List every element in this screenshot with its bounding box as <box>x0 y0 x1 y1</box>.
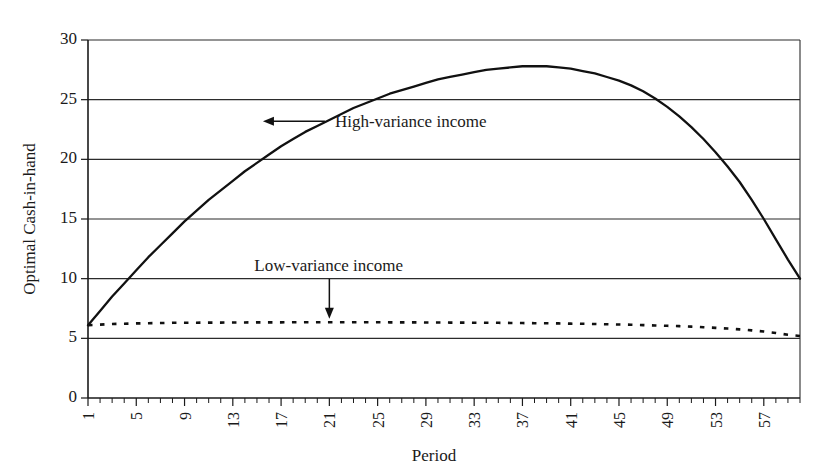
x-tick-label-9: 9 <box>177 412 194 420</box>
data-series <box>88 66 800 336</box>
low-variance-arrow-head <box>325 308 334 319</box>
y-tick-label-0: 0 <box>69 387 78 406</box>
x-tick-label-1: 1 <box>80 412 97 420</box>
gridlines <box>88 40 800 338</box>
x-tick-label-53: 53 <box>708 412 725 428</box>
series-high-variance <box>88 66 800 325</box>
x-tick-label-17: 17 <box>273 412 290 428</box>
x-tick-label-45: 45 <box>611 412 628 428</box>
series-low-variance <box>88 322 800 336</box>
y-tick-label-5: 5 <box>69 327 78 346</box>
line-chart: 051015202530 159131721252933374145495357… <box>0 0 827 473</box>
x-tick-label-29: 29 <box>418 412 435 428</box>
y-tick-label-25: 25 <box>60 89 77 108</box>
x-tick-label-33: 33 <box>466 412 483 428</box>
x-axis-title: Period <box>412 446 457 465</box>
y-axis-title: Optimal Cash-in-hand <box>20 143 39 295</box>
chart-figure: 051015202530 159131721252933374145495357… <box>0 0 827 473</box>
high-variance-annotation-label: High-variance income <box>335 112 487 131</box>
x-tick-label-5: 5 <box>128 412 145 420</box>
y-axis-ticks: 051015202530 <box>60 29 88 406</box>
x-tick-label-25: 25 <box>370 412 387 428</box>
x-tick-label-41: 41 <box>563 412 580 428</box>
x-axis-ticks: 159131721252933374145495357 <box>80 398 800 428</box>
y-tick-label-30: 30 <box>60 29 77 48</box>
x-tick-label-57: 57 <box>756 412 773 428</box>
x-tick-label-37: 37 <box>514 412 531 428</box>
x-tick-label-13: 13 <box>225 412 242 428</box>
y-tick-label-20: 20 <box>60 148 77 167</box>
x-tick-label-21: 21 <box>321 412 338 428</box>
y-tick-label-15: 15 <box>60 208 77 227</box>
low-variance-annotation-label: Low-variance income <box>254 256 403 275</box>
y-tick-label-10: 10 <box>60 268 77 287</box>
x-tick-label-49: 49 <box>659 412 676 428</box>
high-variance-arrow-head <box>263 117 274 126</box>
annotations: High-variance incomeLow-variance income <box>254 112 486 319</box>
